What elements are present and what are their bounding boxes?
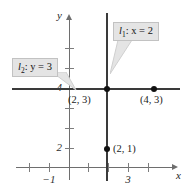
- y-tick-3: [65, 108, 74, 109]
- data-point-2-1: [104, 146, 110, 152]
- y-tick-1: [65, 148, 74, 149]
- callout-l2-equation: : y = 3: [25, 61, 52, 72]
- data-point-label-2-1: (2, 1): [113, 143, 136, 154]
- x-ticklabel-3: 3: [125, 173, 131, 185]
- x-tick-3: [128, 163, 129, 172]
- callout-l1-leader-icon: [110, 40, 134, 74]
- x-tick-2: [108, 163, 109, 172]
- coordinate-plane-figure: −1 3 2 4 x y l1: x = 2 l2: y = 3 (2, 3) …: [0, 0, 191, 195]
- y-tick-2: [65, 128, 74, 129]
- x-tick-1: [88, 163, 89, 172]
- x-tick-minus2: [29, 163, 30, 172]
- y-ticklabel-2: 2: [48, 141, 62, 153]
- data-point-4-3: [151, 86, 157, 92]
- data-point-2-3: [104, 86, 110, 92]
- x-tick-minus1: [49, 163, 50, 172]
- data-point-label-2-3: (2, 3): [68, 94, 91, 105]
- callout-l1-equation: : x = 2: [126, 25, 153, 36]
- y-axis-arrow-icon: [66, 14, 72, 20]
- callout-l2: l2: y = 3: [12, 58, 58, 77]
- x-tick-4: [148, 163, 149, 172]
- x-axis-label: x: [176, 169, 181, 181]
- y-tick-5: [65, 68, 74, 69]
- x-axis: [16, 167, 174, 168]
- x-ticklabel-minus1: −1: [43, 173, 56, 185]
- callout-l1: l1: x = 2: [113, 22, 159, 41]
- data-point-label-4-3: (4, 3): [140, 94, 163, 105]
- y-tick-6: [65, 48, 74, 49]
- y-axis-label: y: [57, 9, 62, 21]
- line-l1-x-equals-2: [106, 13, 108, 181]
